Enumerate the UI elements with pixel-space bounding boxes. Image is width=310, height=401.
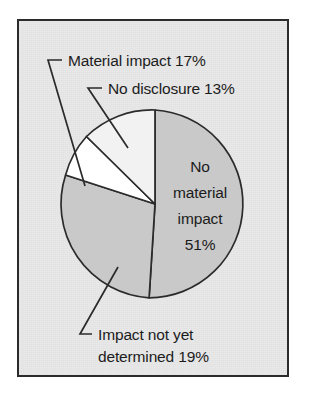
label-material-impact: Material impact 17%: [68, 52, 206, 69]
center-label-line2: material: [173, 184, 227, 201]
center-label-line1: No: [190, 158, 210, 175]
leader-line-material-impact: [48, 60, 85, 186]
pie-slices: [61, 110, 243, 298]
center-label-line4: 51%: [185, 236, 216, 253]
label-impact-not-yet-determined-line2: determined 19%: [98, 348, 209, 365]
pie-chart-figure: Material impact 17% No disclosure 13% Im…: [0, 0, 310, 401]
label-impact-not-yet-determined-line1: Impact not yet: [98, 326, 194, 343]
pie-chart-svg: Material impact 17% No disclosure 13% Im…: [0, 0, 310, 401]
center-label-line3: impact: [178, 210, 224, 227]
label-no-disclosure: No disclosure 13%: [108, 80, 235, 97]
pie-slice-no-material-impact[interactable]: [149, 110, 243, 298]
